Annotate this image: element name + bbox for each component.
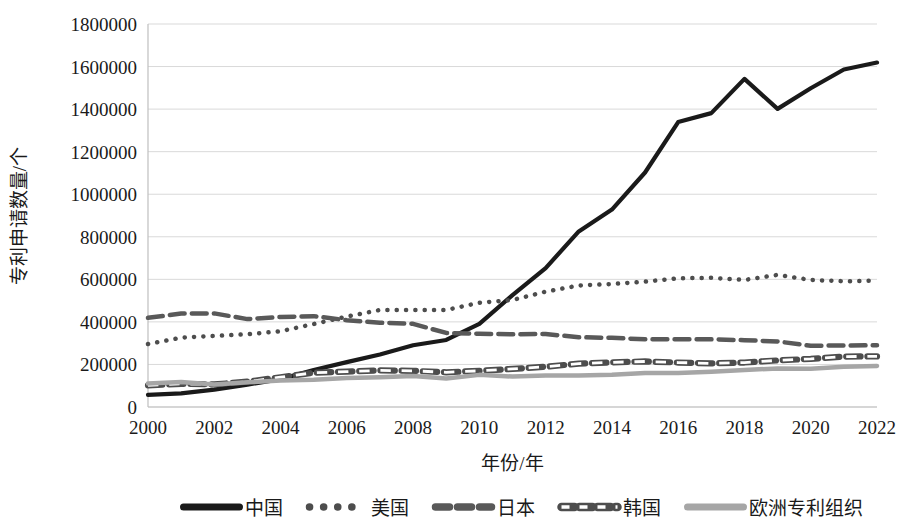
x-tick-label: 2018 [725, 417, 763, 438]
x-tick-label: 2004 [262, 417, 301, 438]
y-tick-label: 1000000 [71, 184, 138, 205]
x-tick-label: 2014 [593, 417, 632, 438]
chart-legend: 中国美国日本韩国欧洲专利组织 [184, 498, 863, 519]
legend-item[interactable]: 中国 [184, 498, 283, 519]
legend-label: 日本 [497, 498, 535, 519]
y-axis-title: 专利申请数量/个 [9, 147, 30, 285]
series-line [148, 63, 877, 395]
legend-item[interactable]: 美国 [310, 498, 409, 519]
legend-label: 欧洲专利组织 [749, 498, 863, 519]
x-tick-label: 2010 [460, 417, 498, 438]
x-axis-tick-labels: 2000200220042006200820102012201420162018… [129, 417, 896, 438]
y-tick-label: 400000 [80, 312, 137, 333]
y-tick-label: 0 [128, 397, 138, 418]
patent-applications-line-chart: 0200000400000600000800000100000012000001… [0, 0, 904, 531]
series-path [148, 63, 877, 395]
y-tick-label: 600000 [80, 269, 137, 290]
x-tick-label: 2020 [792, 417, 830, 438]
legend-label: 韩国 [623, 498, 661, 519]
x-tick-label: 2000 [129, 417, 167, 438]
y-tick-label: 1200000 [71, 142, 138, 163]
x-tick-label: 2008 [394, 417, 432, 438]
x-axis-title: 年份/年 [481, 453, 543, 474]
plot-axis-frame [148, 24, 877, 407]
x-axis-title-text: 年份/年 [481, 453, 543, 474]
y-tick-label: 1400000 [71, 99, 138, 120]
legend-item[interactable]: 韩国 [562, 498, 661, 519]
x-tick-label: 2022 [858, 417, 896, 438]
y-tick-label: 200000 [80, 354, 137, 375]
legend-label: 中国 [245, 498, 283, 519]
y-axis-title-text: 专利申请数量/个 [9, 147, 30, 285]
series-line [148, 313, 877, 345]
x-tick-label: 2012 [527, 417, 565, 438]
chart-canvas: 0200000400000600000800000100000012000001… [0, 0, 904, 531]
y-tick-label: 1800000 [71, 14, 138, 35]
y-axis-tick-labels: 0200000400000600000800000100000012000001… [71, 14, 138, 418]
y-tick-label: 800000 [80, 227, 137, 248]
gridlines-group [148, 24, 877, 407]
x-tick-label: 2006 [328, 417, 366, 438]
x-tick-label: 2016 [659, 417, 697, 438]
series-path [148, 313, 877, 345]
data-series-group [148, 63, 877, 395]
legend-item[interactable]: 欧洲专利组织 [688, 498, 863, 519]
legend-item[interactable]: 日本 [436, 498, 535, 519]
y-tick-label: 1600000 [71, 57, 138, 78]
x-tick-label: 2002 [195, 417, 233, 438]
legend-label: 美国 [371, 498, 409, 519]
